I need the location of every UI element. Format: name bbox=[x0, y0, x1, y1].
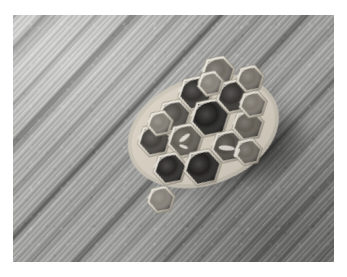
frame-border-top bbox=[0, 0, 347, 15]
cell-depth-shading bbox=[146, 185, 176, 214]
wasp-nest-svg bbox=[13, 15, 334, 262]
wasp-nest-comb bbox=[13, 15, 334, 262]
frame-border-left bbox=[0, 0, 13, 277]
photograph bbox=[13, 15, 334, 262]
frame-border-right bbox=[334, 0, 347, 277]
frame-border-bottom bbox=[0, 262, 347, 277]
photo-stage: Paper wasp nest comb on wooden board bbox=[0, 0, 347, 277]
